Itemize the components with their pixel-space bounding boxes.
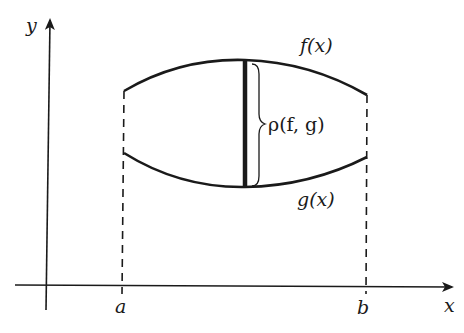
label-b: b bbox=[357, 296, 369, 318]
x-axis bbox=[15, 285, 452, 287]
y-axis bbox=[46, 20, 50, 310]
label-rho-distance: ρ(f, g) bbox=[268, 113, 325, 135]
x-axis-label: x bbox=[444, 294, 455, 316]
curly-brace bbox=[252, 64, 265, 186]
label-f-of-x: f(x) bbox=[298, 34, 333, 56]
y-axis-label: y bbox=[25, 14, 37, 36]
dashed-line-b bbox=[366, 95, 367, 294]
label-g-of-x: g(x) bbox=[297, 188, 335, 210]
dashed-line-a bbox=[122, 91, 124, 294]
label-a: a bbox=[115, 295, 126, 317]
diagram-canvas: y x a b f(x) g(x) ρ(f, g) bbox=[0, 0, 464, 333]
